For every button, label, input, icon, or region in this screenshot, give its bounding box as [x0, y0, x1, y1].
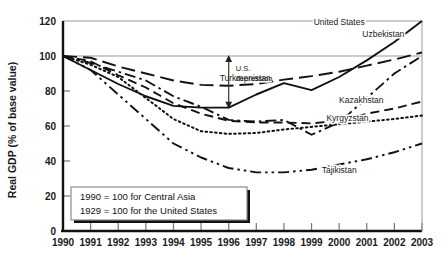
series-label-united-states: United States: [314, 17, 365, 27]
x-tick-label-1999: 1999: [300, 237, 323, 248]
x-tick-label-1993: 1993: [135, 237, 158, 248]
x-tick-label-1996: 1996: [218, 237, 241, 248]
note-line-1: 1990 = 100 for Central Asia: [80, 191, 196, 202]
depression-annotation-line-1: U.S.: [236, 64, 251, 73]
x-tick-label-2003: 2003: [411, 237, 434, 248]
chart-container: 020406080100120 199019911992199319941995…: [0, 0, 448, 272]
note-line-2: 1929 = 100 for the United States: [80, 205, 217, 216]
x-tick-label-2002: 2002: [383, 237, 406, 248]
y-tick-label-0: 0: [50, 226, 56, 237]
x-tick-label-1994: 1994: [162, 237, 185, 248]
y-tick-label-40: 40: [45, 156, 57, 167]
y-tick-label-100: 100: [39, 51, 56, 62]
y-tick-label-120: 120: [39, 16, 56, 27]
x-tick-label-1992: 1992: [107, 237, 130, 248]
y-tick-label-20: 20: [45, 191, 57, 202]
x-tick-label-2001: 2001: [356, 237, 379, 248]
series-label-kazakhstan: Kazakhstan: [339, 95, 384, 105]
x-tick-label-1998: 1998: [273, 237, 296, 248]
x-tick-label-1997: 1997: [245, 237, 268, 248]
y-tick-label-60: 60: [45, 121, 57, 132]
y-axis-title: Real GDP (% of base value): [6, 62, 18, 198]
x-tick-label-2000: 2000: [328, 237, 351, 248]
series-label-uzbekistan: Uzbekistan: [362, 29, 404, 39]
x-tick-label-1995: 1995: [190, 237, 213, 248]
note-box: 1990 = 100 for Central Asia 1929 = 100 f…: [71, 187, 250, 223]
gdp-line-chart: 020406080100120 199019911992199319941995…: [0, 0, 448, 272]
series-label-tajikistan: Tajikistan: [322, 165, 357, 175]
depression-annotation-line-2: depression: [236, 74, 273, 83]
series-label-kyrgyzstan: Kyrgyzstan: [326, 113, 368, 123]
x-tick-label-1990: 1990: [52, 237, 75, 248]
y-tick-label-80: 80: [45, 86, 57, 97]
x-tick-label-1991: 1991: [79, 237, 102, 248]
